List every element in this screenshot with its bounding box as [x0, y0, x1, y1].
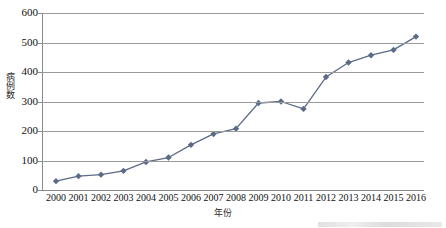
- gridline: [42, 43, 424, 44]
- data-point-marker: 2002: 52: [98, 171, 104, 177]
- data-point-marker: 2014: 457: [368, 52, 374, 58]
- gridline: [42, 13, 424, 14]
- y-axis-tick-label: 200: [12, 125, 38, 136]
- data-point-marker: 2016: 520: [413, 33, 419, 39]
- series-polyline: [56, 37, 416, 182]
- page-edge-artifact: [318, 222, 442, 227]
- data-point-marker: 2000: 30: [53, 178, 59, 184]
- data-point-marker: 2006: 153: [188, 142, 194, 148]
- y-axis-tick-label: 600: [12, 7, 38, 18]
- plot-area: 2000: 302001: 472002: 522003: 652004: 95…: [42, 13, 424, 190]
- data-point-marker: 2003: 65: [120, 168, 126, 174]
- data-point-marker: 2015: 475: [390, 47, 396, 53]
- y-axis-tick-label: 0: [12, 184, 38, 195]
- line-chart: 病例数 0100200300400500600 2000: 302001: 47…: [0, 0, 446, 228]
- x-axis-tick-labels: 2000200120022003200420052006200720082009…: [42, 192, 424, 208]
- y-axis-tick-label: 100: [12, 155, 38, 166]
- x-axis-line: [42, 190, 424, 191]
- y-axis-tick-label: 400: [12, 66, 38, 77]
- x-axis-title: 年份: [0, 208, 446, 219]
- data-point-marker: 2001: 47: [75, 173, 81, 179]
- gridline: [42, 72, 424, 73]
- data-point-marker: 2013: 432: [345, 59, 351, 65]
- gridline: [42, 161, 424, 162]
- gridline: [42, 102, 424, 103]
- gridline: [42, 131, 424, 132]
- y-axis-tick-label: 300: [12, 96, 38, 107]
- y-axis-tick-labels: 0100200300400500600: [10, 0, 38, 228]
- y-axis-tick-label: 500: [12, 37, 38, 48]
- x-axis-tick-label: 2016: [399, 192, 433, 204]
